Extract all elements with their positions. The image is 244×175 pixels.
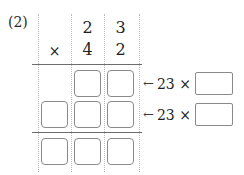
column-guide-1 xyxy=(38,14,39,172)
column-guide-4 xyxy=(139,14,140,172)
annotation-row-1: ← 23 × xyxy=(143,72,233,95)
multiplicand-digit-ones: 3 xyxy=(104,18,137,38)
total-tens-box[interactable] xyxy=(74,138,101,165)
annotation-2-expression: 23 × xyxy=(157,107,191,123)
left-arrow-icon: ← xyxy=(143,108,154,121)
partial-product-2-hundreds-box[interactable] xyxy=(41,101,68,128)
multiplier-digit-ones: 2 xyxy=(104,40,137,60)
total-rule xyxy=(32,132,142,133)
total-ones-box[interactable] xyxy=(107,138,134,165)
partial-product-2-tens-box[interactable] xyxy=(74,101,101,128)
annotation-row-2: ← 23 × xyxy=(143,103,233,126)
annotation-1-answer-box[interactable] xyxy=(195,72,233,95)
left-arrow-icon: ← xyxy=(143,77,154,90)
annotation-1-expression: 23 × xyxy=(157,76,191,92)
partial-product-2-ones-box[interactable] xyxy=(107,101,134,128)
multiplicand-digit-tens: 2 xyxy=(71,18,104,38)
partial-product-1-tens-box[interactable] xyxy=(74,70,101,97)
partial-product-1-ones-box[interactable] xyxy=(107,70,134,97)
annotation-2-answer-box[interactable] xyxy=(195,103,233,126)
problem-number-label: (2) xyxy=(8,13,28,31)
multiplier-digit-tens: 4 xyxy=(71,40,104,60)
operand-rule xyxy=(32,64,142,65)
multiplication-sign: × xyxy=(38,41,71,61)
total-hundreds-box[interactable] xyxy=(41,138,68,165)
multiplication-worksheet: (2) 2 3 × 4 2 ← 23 × ← 23 × xyxy=(0,0,244,175)
